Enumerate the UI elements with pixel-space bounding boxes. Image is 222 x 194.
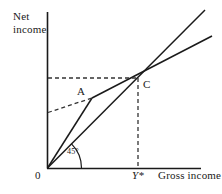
net-income-segment-upper bbox=[92, 36, 212, 98]
point-label-c: C bbox=[143, 79, 151, 90]
figure-canvas: Net income 0 Y* Gross income A C 45° bbox=[0, 0, 222, 194]
y-axis-label-line1: Net bbox=[13, 11, 29, 22]
net-income-segment-lower bbox=[48, 98, 93, 168]
point-label-a: A bbox=[77, 86, 85, 97]
origin-label: 0 bbox=[35, 170, 41, 181]
angle-label-45-degrees: 45° bbox=[67, 147, 79, 156]
dashed-extension-line bbox=[48, 98, 92, 113]
x-axis-label: Gross income bbox=[158, 170, 221, 181]
x-tick-label-y-star: Y* bbox=[132, 170, 144, 181]
y-axis-label-line2: income bbox=[13, 24, 47, 35]
